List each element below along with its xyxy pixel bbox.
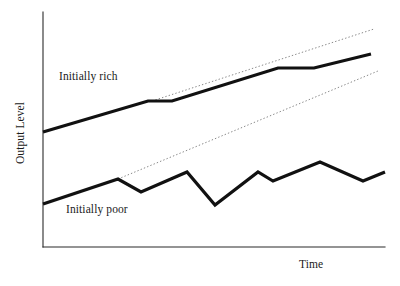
series-line-initially-rich [43, 54, 371, 132]
series-label-initially-rich: Initially rich [59, 70, 118, 82]
chart-figure: Initially rich Initially poor Time Outpu… [0, 0, 400, 286]
series-line-initially-poor [43, 162, 385, 205]
x-axis-label: Time [299, 258, 323, 270]
series-label-initially-poor: Initially poor [66, 203, 128, 215]
upper-trend-line [152, 29, 374, 101]
lower-trend-line [118, 71, 378, 179]
chart-plot-area [0, 0, 400, 286]
y-axis-label: Output Level [14, 93, 26, 173]
